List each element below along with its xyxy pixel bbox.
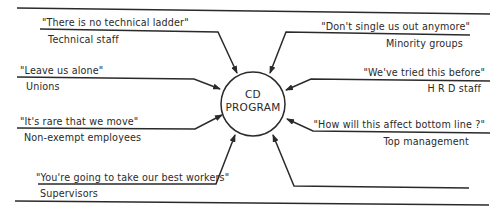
group-minority-groups: Minority groups: [386, 38, 463, 49]
quote-hrd-staff: "We've tried this before": [363, 67, 485, 78]
bottom-border: [15, 201, 489, 205]
cd-program-label: CD PROGRAM: [221, 88, 285, 114]
center-line-1: CD: [221, 88, 285, 101]
group-supervisors: Supervisors: [40, 188, 98, 199]
quote-top-management: "How will this affect bottom line ?": [314, 119, 485, 130]
quote-non-exempt: "It's rare that we move": [20, 116, 138, 127]
quote-technical-staff: "There is no technical ladder": [42, 17, 189, 28]
center-line-2: PROGRAM: [221, 101, 285, 114]
group-unions: Unions: [26, 81, 60, 92]
group-non-exempt: Non-exempt employees: [24, 132, 141, 143]
group-technical-staff: Technical staff: [48, 34, 119, 45]
quote-minority-groups: "Don't single us out anymore": [321, 21, 470, 32]
group-top-management: Top management: [383, 136, 469, 147]
quote-supervisors: "You're going to take our best workers": [36, 172, 229, 183]
quote-unions: "Leave us alone": [20, 65, 103, 76]
group-hrd-staff: H R D staff: [428, 83, 481, 94]
top-border: [17, 8, 490, 14]
